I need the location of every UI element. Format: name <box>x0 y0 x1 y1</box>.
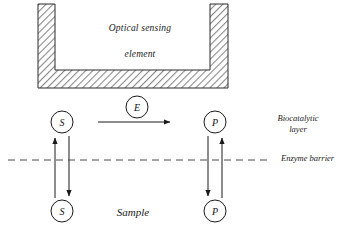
biocatalytic-layer-label: Biocatalyticlayer <box>277 113 318 136</box>
node-label-substrate-bottom: S <box>60 206 65 217</box>
optical-sensing-element-label: Optical sensingelement <box>109 22 171 60</box>
biocatalytic-line1: Biocatalytic <box>277 113 318 123</box>
enzyme-barrier-label: Enzyme barrier <box>281 153 334 164</box>
biocatalytic-line2: layer <box>289 124 306 134</box>
sample-label: Sample <box>117 205 149 220</box>
node-label-product-top: P <box>212 117 218 128</box>
node-label-enzyme: E <box>134 102 140 113</box>
node-label-substrate-top: S <box>60 117 65 128</box>
node-label-product-bottom: P <box>212 206 218 217</box>
optical-sensing-line1: Optical sensing <box>109 23 171 33</box>
biosensor-diagram: S E P S P Optical sensingelement Biocata… <box>0 0 350 240</box>
optical-sensing-line2: element <box>125 49 156 59</box>
